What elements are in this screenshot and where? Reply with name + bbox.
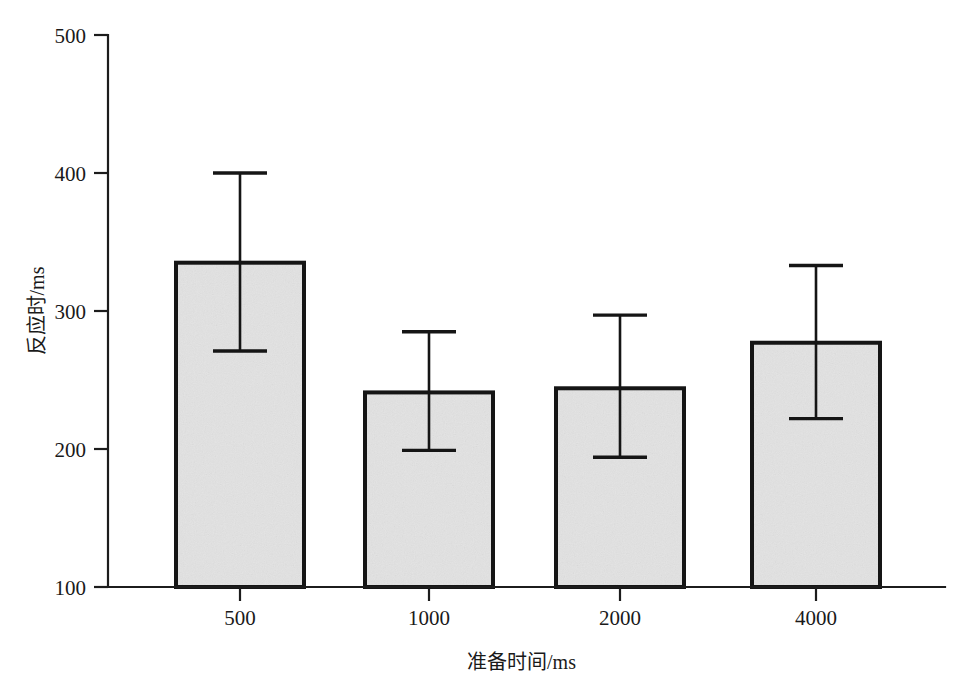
y-tick-label-500: 500 <box>55 24 87 48</box>
chart-canvas: 100200300400500 500100020004000 反应时/ms 准… <box>0 0 961 693</box>
y-tick-label-300: 300 <box>55 300 87 324</box>
y-tick-label-400: 400 <box>55 162 87 186</box>
y-axis-title: 反应时/ms <box>26 266 48 355</box>
y-tick-label-200: 200 <box>55 438 87 462</box>
y-tick-label-100: 100 <box>55 576 87 600</box>
x-tick-label-4000: 4000 <box>795 606 837 630</box>
x-tick-label-1000: 1000 <box>408 606 450 630</box>
x-tick-label-500: 500 <box>224 606 256 630</box>
chart-figure: 100200300400500 500100020004000 反应时/ms 准… <box>0 0 961 693</box>
x-axis-title: 准备时间/ms <box>467 651 576 673</box>
x-tick-label-2000: 2000 <box>599 606 641 630</box>
